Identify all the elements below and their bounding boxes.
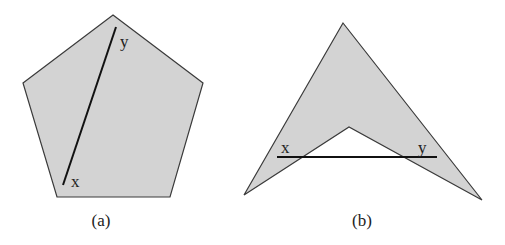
pentagon-shape: [23, 15, 203, 197]
label-x-b: x: [281, 138, 290, 157]
convexity-diagram: y x (a) x y (b): [0, 0, 505, 245]
label-y-b: y: [418, 138, 427, 157]
figure-a: y x (a): [23, 15, 203, 230]
caption-a: (a): [92, 211, 111, 230]
label-x-a: x: [71, 172, 80, 191]
diagram-svg: y x (a) x y (b): [0, 0, 505, 245]
figure-b: x y (b): [244, 23, 482, 230]
arrowhead-shape: [244, 23, 482, 200]
caption-b: (b): [352, 211, 372, 230]
label-y-a: y: [120, 32, 129, 51]
